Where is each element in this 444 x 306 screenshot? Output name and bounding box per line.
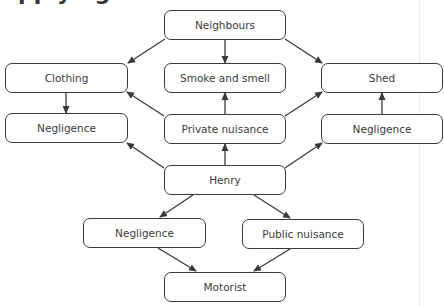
- node-label: Public nuisance: [262, 228, 343, 240]
- arrow-private-nuisance-to-shed: [285, 92, 322, 116]
- node-smoke-and-smell: Smoke and smell: [164, 63, 286, 93]
- node-label: Motorist: [204, 281, 247, 293]
- arrow-henry-to-negligence-right: [285, 143, 322, 168]
- node-motorist: Motorist: [164, 272, 286, 302]
- node-label: Shed: [369, 72, 395, 84]
- arrow-henry-to-negligence-bottom: [160, 195, 193, 217]
- arrow-public-nuisance-to-motorist: [254, 249, 290, 271]
- diagram-edges: [0, 0, 444, 306]
- node-label: Negligence: [37, 122, 96, 134]
- node-clothing: Clothing: [5, 63, 128, 93]
- node-negligence-left: Negligence: [5, 113, 128, 143]
- node-label: Negligence: [353, 123, 412, 135]
- node-negligence-bottom: Negligence: [83, 218, 206, 248]
- arrow-negligence-bottom--to-motorist: [158, 248, 196, 271]
- node-label: Neighbours: [195, 19, 255, 31]
- node-henry: Henry: [164, 165, 286, 195]
- node-label: Clothing: [45, 72, 89, 84]
- arrow-henry-to-negligence-left: [127, 143, 164, 168]
- node-shed: Shed: [321, 63, 443, 93]
- node-private-nuisance: Private nuisance: [164, 114, 286, 144]
- arrow-neighbours-to-clothing: [128, 39, 165, 63]
- arrow-neighbours-to-shed: [285, 39, 322, 63]
- arrow-henry-to-public-nuisance: [254, 195, 290, 218]
- node-negligence-right: Negligence: [321, 114, 443, 144]
- node-label: Smoke and smell: [180, 72, 270, 84]
- node-public-nuisance: Public nuisance: [242, 219, 364, 249]
- node-label: Negligence: [115, 227, 174, 239]
- node-neighbours: Neighbours: [164, 10, 286, 40]
- node-label: Henry: [209, 174, 241, 186]
- arrow-private-nuisance-to-clothing: [127, 92, 164, 116]
- node-label: Private nuisance: [182, 123, 269, 135]
